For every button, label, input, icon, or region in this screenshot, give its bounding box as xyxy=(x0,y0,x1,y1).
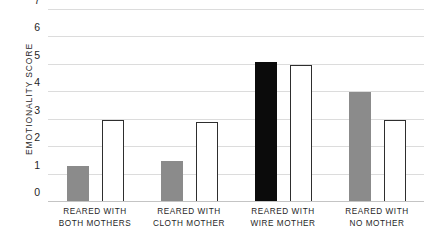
bar xyxy=(290,65,312,202)
x-axis-category-label: REARED WITHWIRE MOTHER xyxy=(236,206,330,229)
y-axis-tick-label: 5 xyxy=(34,50,40,61)
category-label-line-1: REARED WITH xyxy=(345,207,408,216)
category-label-line-2: NO MOTHER xyxy=(330,218,424,230)
emotionality-score-bar-chart: EMOTIONALITY SCORE 01234567 REARED WITHB… xyxy=(0,0,429,242)
gridline xyxy=(48,9,424,10)
bar xyxy=(384,120,406,202)
bar xyxy=(196,122,218,202)
y-axis-tick-label: 0 xyxy=(34,187,40,198)
x-axis-category-label: REARED WITHCLOTH MOTHER xyxy=(142,206,236,229)
category-label-line-1: REARED WITH xyxy=(157,207,220,216)
category-label-line-1: REARED WITH xyxy=(251,207,314,216)
y-axis-tick-label: 6 xyxy=(34,22,40,33)
bar xyxy=(349,92,371,202)
y-axis-tick-label: 7 xyxy=(34,0,40,5)
category-label-line-2: CLOTH MOTHER xyxy=(142,218,236,230)
gridline xyxy=(48,64,424,65)
category-label-line-1: REARED WITH xyxy=(63,207,126,216)
plot-area: 01234567 xyxy=(48,10,424,202)
bar xyxy=(102,120,124,202)
y-axis-tick-label: 1 xyxy=(34,159,40,170)
y-axis-tick-label: 3 xyxy=(34,104,40,115)
bar xyxy=(67,166,89,202)
bar xyxy=(161,161,183,202)
category-label-line-2: BOTH MOTHERS xyxy=(48,218,142,230)
y-axis-title: EMOTIONALITY SCORE xyxy=(24,14,34,184)
x-axis-category-label: REARED WITHNO MOTHER xyxy=(330,206,424,229)
x-axis-baseline xyxy=(48,201,424,202)
gridline xyxy=(48,36,424,37)
y-axis-tick-label: 4 xyxy=(34,77,40,88)
x-axis-category-label: REARED WITHBOTH MOTHERS xyxy=(48,206,142,229)
y-axis-tick-label: 2 xyxy=(34,132,40,143)
category-label-line-2: WIRE MOTHER xyxy=(236,218,330,230)
bar xyxy=(255,62,277,202)
